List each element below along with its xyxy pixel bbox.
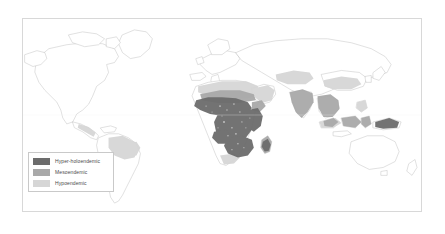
- legend-item-mesoendemic: Mesoendemic: [33, 167, 109, 177]
- legend-swatch-hypoendemic: [33, 180, 50, 187]
- legend-swatch-hyper-holoendemic: [33, 158, 50, 165]
- legend-label-hyper-holoendemic: Hyper-holoendemic: [55, 158, 100, 164]
- legend-swatch-mesoendemic: [33, 169, 50, 176]
- tasmania-outline: [381, 170, 387, 175]
- map-frame: Hyper-holoendemic Mesoendemic Hypoendemi…: [22, 18, 422, 212]
- legend-label-mesoendemic: Mesoendemic: [55, 169, 87, 175]
- legend-item-hypoendemic: Hypoendemic: [33, 178, 109, 188]
- figure-container: Hyper-holoendemic Mesoendemic Hypoendemi…: [0, 0, 445, 234]
- korea-outline: [365, 75, 371, 82]
- legend-label-hypoendemic: Hypoendemic: [55, 180, 87, 186]
- legend-item-hyper-holoendemic: Hyper-holoendemic: [33, 156, 109, 166]
- map-legend: Hyper-holoendemic Mesoendemic Hypoendemi…: [28, 152, 114, 192]
